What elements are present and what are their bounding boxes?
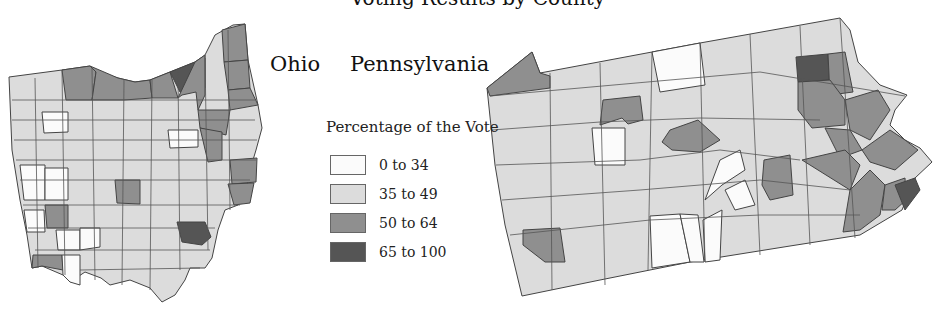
legend-label: 35 to 49 xyxy=(379,186,438,202)
pennsylvania-label: Pennsylvania xyxy=(350,52,489,76)
legend-item: 35 to 49 xyxy=(326,179,499,208)
legend-label: 65 to 100 xyxy=(379,244,447,260)
legend-label: 0 to 34 xyxy=(379,157,429,173)
ohio-label: Ohio xyxy=(270,52,320,76)
legend-swatch xyxy=(330,184,366,204)
legend-item: 50 to 64 xyxy=(326,208,499,237)
legend-item: 0 to 34 xyxy=(326,150,499,179)
legend-title: Percentage of the Vote xyxy=(326,118,499,136)
legend-item: 65 to 100 xyxy=(326,237,499,266)
legend-swatch xyxy=(330,242,366,262)
legend-swatch xyxy=(330,155,366,175)
legend: Percentage of the Vote 0 to 34 35 to 49 … xyxy=(326,118,499,266)
legend-swatch xyxy=(330,213,366,233)
legend-label: 50 to 64 xyxy=(379,215,438,231)
